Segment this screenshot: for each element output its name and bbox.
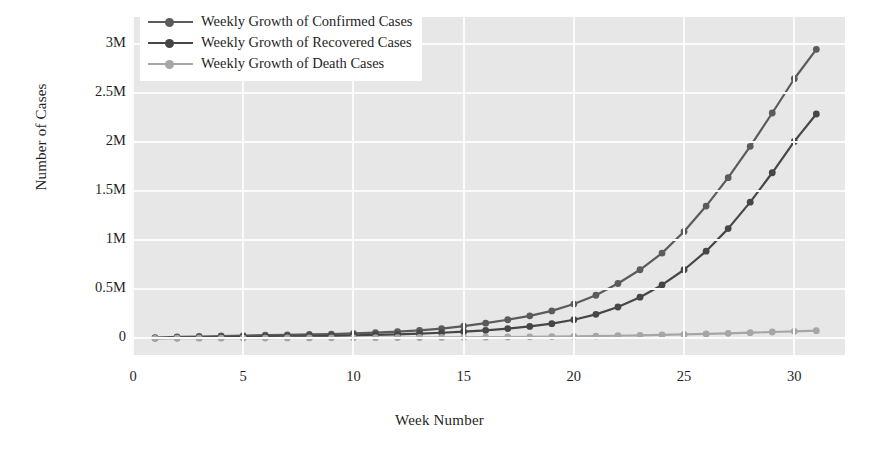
legend-marker-icon <box>148 37 193 49</box>
y-tick-label: 3M <box>66 34 126 51</box>
gridline-vertical <box>793 17 795 355</box>
data-point-marker <box>747 143 754 150</box>
data-point-marker <box>703 330 710 337</box>
data-point-marker <box>637 266 644 273</box>
legend-dot-icon <box>165 60 174 69</box>
data-point-marker <box>482 320 489 327</box>
y-tick-label: 0.5M <box>66 279 126 296</box>
data-point-marker <box>659 282 666 289</box>
gridline-horizontal <box>133 141 845 143</box>
x-tick-label: 5 <box>223 368 263 385</box>
data-point-marker <box>725 330 732 337</box>
data-point-marker <box>615 280 622 287</box>
data-point-marker <box>526 312 533 319</box>
gridline-vertical <box>132 17 134 355</box>
x-tick-label: 20 <box>554 368 594 385</box>
data-point-marker <box>593 292 600 299</box>
y-axis-tick-labels: 00.5M1M1.5M2M2.5M3M <box>58 0 126 459</box>
data-point-marker <box>813 327 820 334</box>
data-point-marker <box>526 323 533 330</box>
gridline-vertical <box>463 17 465 355</box>
data-point-marker <box>659 250 666 257</box>
chart-legend: Weekly Growth of Confirmed CasesWeekly G… <box>140 5 422 81</box>
gridline-horizontal <box>133 288 845 290</box>
legend-item-label: Weekly Growth of Recovered Cases <box>201 32 412 53</box>
y-tick-label: 0 <box>66 328 126 345</box>
legend-item-label: Weekly Growth of Confirmed Cases <box>201 11 412 32</box>
data-point-marker <box>593 311 600 318</box>
data-point-marker <box>548 320 555 327</box>
x-axis-tick-labels: 051015202530 <box>133 368 845 392</box>
data-point-marker <box>482 327 489 334</box>
y-tick-label: 1M <box>66 230 126 247</box>
legend-dot-icon <box>165 18 174 27</box>
data-point-marker <box>813 111 820 118</box>
y-tick-label: 2.5M <box>66 83 126 100</box>
data-point-marker <box>615 304 622 311</box>
data-point-marker <box>725 174 732 181</box>
legend-marker-icon <box>148 16 193 28</box>
gridline-horizontal <box>133 92 845 94</box>
legend-marker-icon <box>148 58 193 70</box>
gridline-horizontal <box>133 239 845 241</box>
data-point-marker <box>504 325 511 332</box>
legend-item-label: Weekly Growth of Death Cases <box>201 53 384 74</box>
data-point-marker <box>725 225 732 232</box>
gridline-vertical <box>573 17 575 355</box>
x-tick-label: 30 <box>774 368 814 385</box>
gridline-horizontal <box>133 190 845 192</box>
data-point-marker <box>703 203 710 210</box>
data-point-marker <box>504 316 511 323</box>
data-point-marker <box>769 329 776 336</box>
legend-dot-icon <box>165 39 174 48</box>
x-tick-label: 15 <box>444 368 484 385</box>
gridline-horizontal <box>133 337 845 339</box>
data-point-marker <box>813 46 820 53</box>
data-point-marker <box>769 110 776 117</box>
y-axis-title: Number of Cases <box>33 22 57 252</box>
x-tick-label: 0 <box>113 368 153 385</box>
data-point-marker <box>747 329 754 336</box>
data-point-marker <box>747 199 754 206</box>
legend-item[interactable]: Weekly Growth of Recovered Cases <box>148 32 412 53</box>
data-point-marker <box>703 248 710 255</box>
data-point-marker <box>637 294 644 301</box>
legend-item[interactable]: Weekly Growth of Death Cases <box>148 53 412 74</box>
chart-figure: Number of Cases 00.5M1M1.5M2M2.5M3M 0510… <box>0 0 879 459</box>
y-tick-label: 2M <box>66 132 126 149</box>
legend-item[interactable]: Weekly Growth of Confirmed Cases <box>148 11 412 32</box>
data-point-marker <box>548 308 555 315</box>
y-tick-label: 1.5M <box>66 181 126 198</box>
x-tick-label: 25 <box>664 368 704 385</box>
data-point-marker <box>769 169 776 176</box>
gridline-vertical <box>683 17 685 355</box>
x-axis-title: Week Number <box>0 412 879 429</box>
series-line <box>155 114 816 338</box>
x-tick-label: 10 <box>333 368 373 385</box>
